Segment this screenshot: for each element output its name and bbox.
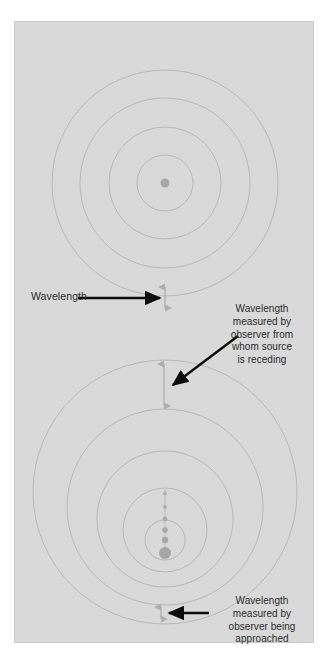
caption-wavelength-approaching: Wavelength measured by observer being ap… [213,595,311,646]
doppler-figure: Wavelength Wavelength measured by observ… [0,0,332,666]
caption-wavelength-receding: Wavelength measured by observer from who… [213,303,311,367]
label-wavelength: Wavelength [31,290,87,303]
